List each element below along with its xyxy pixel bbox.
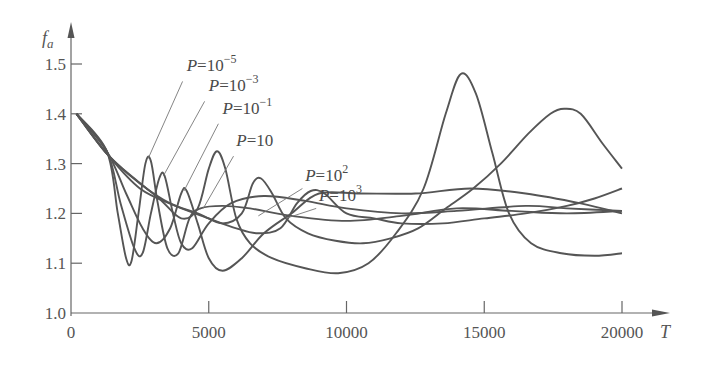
y-tick-label: 1.3 <box>45 155 66 174</box>
x-tick-label: 0 <box>67 323 76 342</box>
series-label: P=10−5 <box>186 52 237 75</box>
curve-series-5 <box>77 114 623 234</box>
curves <box>77 73 623 273</box>
y-tick-label: 1.5 <box>45 55 66 74</box>
curve-series-4 <box>77 109 623 244</box>
y-ticks: 1.01.11.21.31.41.5 <box>45 55 82 323</box>
x-tick-label: 5000 <box>192 323 226 342</box>
y-axis-title: fa <box>42 28 54 51</box>
y-tick-label: 1.4 <box>45 105 67 124</box>
x-tick-label: 20000 <box>601 323 644 342</box>
y-tick-label: 1.2 <box>45 204 66 223</box>
leader-line <box>148 81 182 158</box>
series-label: P=102 <box>304 162 348 185</box>
x-ticks: 05000100001500020000 <box>67 301 644 342</box>
leader-line <box>163 101 204 176</box>
chart: fa T 1.01.11.21.31.41.5 0500010000150002… <box>0 0 709 365</box>
x-tick-label: 15000 <box>463 323 506 342</box>
y-tick-label: 1.1 <box>45 254 66 273</box>
series-label: P=103 <box>318 182 362 205</box>
x-tick-label: 10000 <box>325 323 368 342</box>
x-axis-arrow-icon <box>652 310 670 317</box>
series-label: P=10−1 <box>222 95 273 118</box>
x-axis-title: T <box>660 322 672 342</box>
y-axis-arrow-icon <box>68 22 75 38</box>
series-label: P=10 <box>235 131 273 150</box>
series-label: P=10−3 <box>208 72 259 95</box>
y-tick-label: 1.0 <box>45 304 66 323</box>
